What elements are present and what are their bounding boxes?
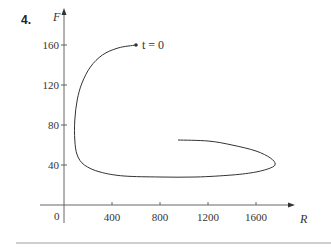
x-tick-label: 1200 xyxy=(197,211,220,223)
y-tick-label: 80 xyxy=(48,119,60,131)
start-point-marker xyxy=(134,43,138,47)
x-tick-label: 1600 xyxy=(245,211,268,223)
y-axis-label: F xyxy=(52,10,61,24)
x-tick-label: 800 xyxy=(152,211,169,223)
axes xyxy=(40,8,295,223)
x-axis-label: R xyxy=(299,212,308,226)
y-tick-label: 160 xyxy=(43,39,60,51)
y-tick-label: 120 xyxy=(43,79,60,91)
trajectory-curve xyxy=(75,45,276,177)
origin-label: 0 xyxy=(54,210,60,222)
chart: 400800120016004080120160 t = 0 R F 0 xyxy=(0,0,331,248)
y-axis-arrow-icon xyxy=(62,8,67,15)
y-tick-label: 40 xyxy=(48,159,60,171)
x-tick-label: 400 xyxy=(104,211,121,223)
annotation-t0: t = 0 xyxy=(142,38,164,52)
ticks: 400800120016004080120160 xyxy=(43,39,268,223)
x-axis-arrow-icon xyxy=(288,203,295,208)
